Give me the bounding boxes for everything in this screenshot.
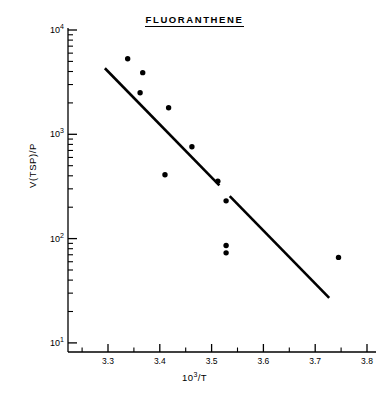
y-tick-exponent: 4 [60, 23, 64, 30]
data-point [125, 56, 130, 61]
y-tick-label: 101 [22, 336, 64, 348]
data-point [189, 144, 194, 149]
regression-line-segment [230, 196, 329, 298]
y-tick-exponent: 2 [60, 232, 64, 239]
data-point [137, 90, 142, 95]
y-tick-base: 10 [50, 234, 60, 244]
y-tick-base: 10 [50, 129, 60, 139]
x-axis-ticks [82, 344, 367, 352]
data-point [223, 243, 228, 248]
y-tick-base: 10 [50, 338, 60, 348]
y-tick-exponent: 1 [60, 336, 64, 343]
y-axis-ticks [68, 30, 77, 343]
regression-line-segment [105, 68, 219, 185]
x-tick-label: 3.8 [347, 356, 387, 366]
x-tick-label: 3.3 [88, 356, 128, 366]
x-tick-label: 3.6 [243, 356, 283, 366]
x-tick-label: 3.7 [295, 356, 335, 366]
data-point [162, 172, 167, 177]
data-point [166, 105, 171, 110]
data-point [140, 70, 145, 75]
y-tick-label: 103 [22, 127, 64, 139]
data-point [336, 255, 341, 260]
y-tick-exponent: 3 [60, 127, 64, 134]
x-tick-label: 3.5 [192, 356, 232, 366]
data-points [125, 56, 341, 260]
data-point [223, 250, 228, 255]
chart-figure: FLUORANTHENE V(TSP)/P 103/T 101102103104… [0, 0, 389, 408]
data-point [223, 198, 228, 203]
y-tick-label: 102 [22, 232, 64, 244]
x-tick-label: 3.4 [140, 356, 180, 366]
data-point [215, 179, 220, 184]
y-tick-label: 104 [22, 23, 64, 35]
y-tick-base: 10 [50, 25, 60, 35]
